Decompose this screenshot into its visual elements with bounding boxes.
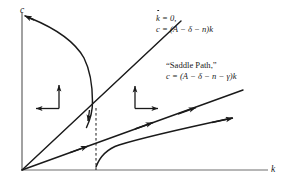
kdot-zero-line1-rest: = 0, xyxy=(160,13,177,23)
kdot-zero-line2: c = (A − δ − n)k xyxy=(156,24,213,35)
saddle-path-equation: c = (A − δ − n − γ)k xyxy=(166,71,237,82)
saddle-path-arrow-upper xyxy=(135,123,153,130)
lower-trajectory xyxy=(96,118,233,167)
cdot-zero-locus xyxy=(25,16,93,128)
saddle-path-arrow-right xyxy=(178,108,196,115)
lower-trajectory-arrow xyxy=(212,118,233,123)
time-derivative-dot-icon xyxy=(157,10,159,12)
saddle-path-title: “Saddle Path,” xyxy=(166,60,237,71)
kdot-zero-line1: k = 0, xyxy=(156,13,213,24)
x-axis-label: k xyxy=(271,163,275,176)
saddle-path-annotation: “Saddle Path,” c = (A − δ − n − γ)k xyxy=(166,60,237,83)
k-symbol: k xyxy=(156,13,160,23)
kdot-zero-annotation: k = 0, c = (A − δ − n)k xyxy=(156,13,213,36)
right-region-arrows xyxy=(135,86,158,109)
k-dot-symbol: k xyxy=(156,13,160,24)
saddle-path-line xyxy=(22,90,243,170)
plot-canvas xyxy=(0,0,288,188)
phase-diagram-figure: c k k = 0, c = (A − δ − n)k “Saddle Path… xyxy=(0,0,288,188)
kdot-zero-line xyxy=(22,21,181,170)
cdot-locus-upleft-arrow xyxy=(25,16,35,20)
y-axis-label: c xyxy=(20,4,24,17)
saddle-path-arrow-mid xyxy=(70,146,88,153)
left-region-arrows xyxy=(36,85,59,109)
